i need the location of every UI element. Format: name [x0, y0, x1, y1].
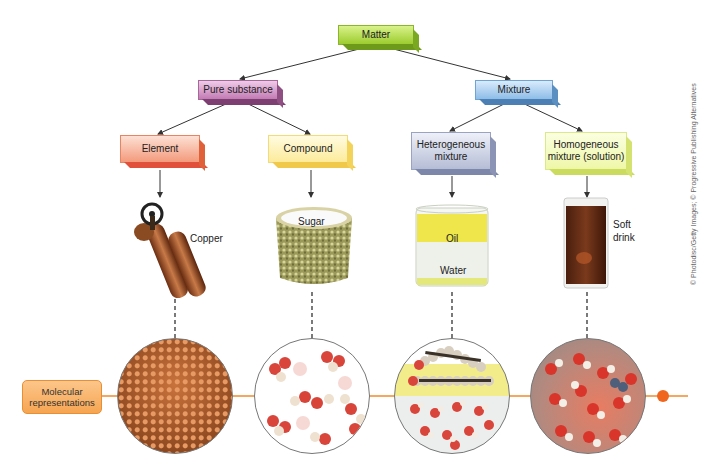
- arrow-pure-compound: [240, 100, 310, 134]
- homo-line2: mixture (solution): [548, 151, 625, 162]
- arrow-matter-mixture: [378, 45, 510, 79]
- node-mixture-label: Mixture: [498, 84, 531, 96]
- oil-water-molecules-circle: [394, 338, 510, 454]
- sugar-molecules-circle: [254, 338, 370, 454]
- oil-label: Oil: [446, 232, 458, 245]
- hetero-line1: Heterogeneous: [417, 139, 485, 150]
- node-element-label: Element: [142, 143, 179, 155]
- node-compound: Compound: [268, 135, 348, 163]
- oil-water-molecules-graphic: [395, 339, 510, 454]
- soft-drink-label-line1: Soft: [613, 218, 631, 231]
- node-element: Element: [120, 135, 200, 163]
- node-heterogeneous-mixture: Heterogeneousmixture: [411, 132, 491, 170]
- molecular-line1: Molecular: [41, 386, 82, 397]
- soft-drink-glass-image: [562, 196, 612, 292]
- photo-credit: © Photodisc/Getty Images; © Progressive …: [690, 83, 697, 285]
- arrow-pure-element: [158, 100, 235, 134]
- copper-pipe-image: [120, 200, 220, 300]
- molecular-line2: representations: [29, 397, 94, 408]
- molecular-line-end-ball: [657, 390, 669, 402]
- soft-drink-label-line2: drink: [613, 231, 635, 244]
- soft-drink-molecules-graphic: [531, 339, 646, 454]
- node-matter-label: Matter: [362, 29, 390, 41]
- oil-water-beaker-image: [412, 202, 492, 292]
- node-homo-text: Homogeneousmixture (solution): [548, 139, 625, 163]
- soft-drink-molecules-circle: [530, 338, 646, 454]
- node-pure-substance: Pure substance: [198, 80, 278, 100]
- node-pure-substance-label: Pure substance: [203, 84, 273, 96]
- homo-line1: Homogeneous: [553, 139, 618, 150]
- molecular-representations-text: Molecularrepresentations: [29, 386, 94, 408]
- hetero-line2: mixture: [435, 151, 468, 162]
- sugar-bowl-image: [270, 200, 360, 290]
- node-compound-label: Compound: [284, 143, 333, 155]
- molecular-representations-box: Molecularrepresentations: [22, 380, 102, 414]
- copper-atoms-circle: [117, 338, 233, 454]
- sugar-label: Sugar: [298, 215, 325, 228]
- copper-label: Copper: [190, 232, 223, 245]
- arrow-matter-pure: [240, 45, 375, 79]
- node-mixture: Mixture: [475, 80, 553, 100]
- node-matter: Matter: [338, 25, 414, 45]
- node-hetero-text: Heterogeneousmixture: [417, 139, 485, 163]
- sugar-molecules-graphic: [255, 339, 370, 454]
- water-label: Water: [440, 264, 466, 277]
- node-homogeneous-mixture: Homogeneousmixture (solution): [545, 132, 627, 170]
